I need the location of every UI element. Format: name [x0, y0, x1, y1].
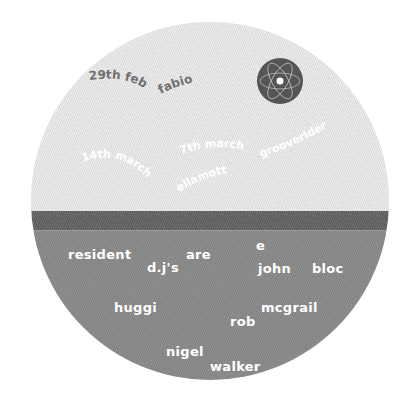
label-djs: d.j's [147, 260, 179, 275]
date-29th-feb: 29th feb [88, 68, 150, 92]
dj-bloc: bloc [312, 261, 344, 276]
dj-rob: rob [230, 314, 256, 329]
date-14th-march: 14th march [80, 147, 154, 180]
label-resident: resident [68, 247, 131, 262]
dj-walker: walker [210, 359, 261, 374]
curved-text-layer: 29th feb fabio 14th march 7th march ella… [31, 22, 389, 380]
dj-john-e: e [256, 238, 265, 253]
artist-grooverider: grooverider [258, 119, 330, 160]
flyer-disc: 29th feb fabio 14th march 7th march ella… [31, 22, 389, 380]
dj-huggi: huggi [114, 300, 157, 315]
artist-fabio: fabio [156, 72, 194, 97]
date-7th-march: 7th march [178, 137, 245, 157]
dj-john: john [258, 261, 291, 276]
dj-nigel: nigel [166, 344, 204, 359]
dj-mcgrail: mcgrail [261, 300, 318, 315]
label-are: are [186, 247, 211, 262]
artist-ellamott: ellamott [174, 163, 228, 194]
